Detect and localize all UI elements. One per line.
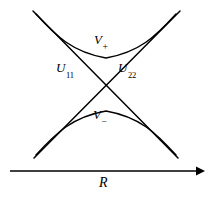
potential-energy-diagram: V+ U11 U22 V− R <box>0 0 213 199</box>
label-r-axis: R <box>99 176 108 190</box>
label-v-plus-base: V <box>94 32 102 47</box>
label-v-plus-subscript: + <box>102 42 107 52</box>
label-v-minus-base: V <box>93 107 101 122</box>
label-u22-base: U <box>118 60 127 75</box>
diagram-canvas <box>0 0 213 199</box>
label-u22: U22 <box>118 61 136 77</box>
label-v-minus: V− <box>93 108 106 125</box>
r-axis-arrowhead-icon <box>196 167 205 176</box>
label-u11: U11 <box>56 61 73 77</box>
label-u11-base: U <box>56 60 65 75</box>
label-v-plus: V+ <box>94 33 107 50</box>
label-u11-subscript: 11 <box>66 70 74 80</box>
label-v-minus-subscript: − <box>101 117 106 127</box>
label-u22-subscript: 22 <box>128 70 136 80</box>
